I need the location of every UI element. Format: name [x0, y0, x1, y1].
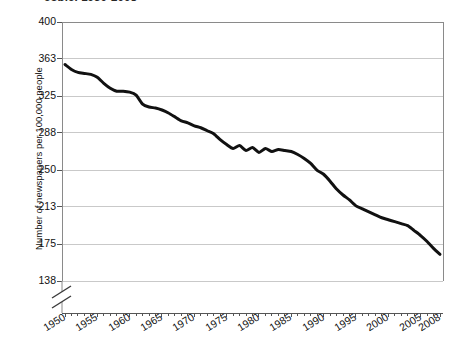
x-tick-label: 2008	[416, 311, 442, 334]
chart-figure: eople, 1950-2008 Number of newspapers pe…	[0, 0, 465, 364]
x-tick-label: 1985	[267, 311, 293, 334]
x-tick-label: 1960	[106, 311, 132, 334]
x-tick-label: 1955	[73, 311, 99, 334]
x-tick-label: 1980	[235, 311, 261, 334]
x-tick-label: 1950	[41, 311, 67, 334]
x-tick-label: 1975	[203, 311, 229, 334]
x-tick-label: 1995	[332, 311, 358, 334]
x-tick-label: 1970	[170, 311, 196, 334]
x-axis-tick-labels: 1950195519601965197019751980198519901995…	[0, 0, 465, 364]
x-tick-label: 1965	[138, 311, 164, 334]
x-tick-label: 2000	[364, 311, 390, 334]
x-tick-label: 1990	[300, 311, 326, 334]
